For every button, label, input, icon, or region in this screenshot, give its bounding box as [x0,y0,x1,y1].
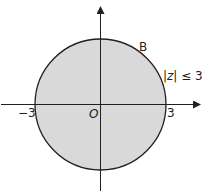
region-condition: |z| ≤ 3 [163,69,202,83]
origin-label: O [89,107,98,121]
tick-label-neg3: −3 [18,106,36,120]
tick-label-3: 3 [167,106,175,120]
argand-diagram: B |z| ≤ 3 −3 O 3 [0,0,202,191]
diagram-svg: B |z| ≤ 3 −3 O 3 [0,0,202,191]
inequality-text: ≤ 3 [177,69,202,83]
region-label: B [139,40,147,54]
